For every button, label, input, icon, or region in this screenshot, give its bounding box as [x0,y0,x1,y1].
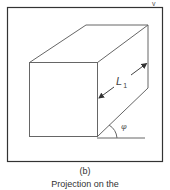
cube-front-face [30,63,98,137]
dimension-subscript: 1 [123,82,127,89]
angle-arc [109,125,117,138]
cube-top-face [30,25,149,63]
caption-label: (b) [0,166,170,176]
caption-text: Projection on the [0,179,170,189]
dimension-arrow-lower [99,87,114,98]
top-marker: v [152,0,156,7]
cube-right-face [98,25,149,137]
figure-diagram: v φ L1 [0,0,170,190]
dimension-arrow-upper [131,64,147,76]
angle-label: φ [121,122,127,131]
dimension-label: L1 [116,75,127,89]
